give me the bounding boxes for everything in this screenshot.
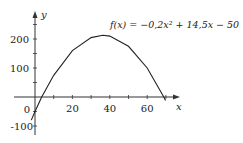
function-plot: 0 20 40 60 200 100 -100 x y f(x) = −0,2x…	[0, 0, 243, 143]
y-axis-label: y	[40, 9, 47, 20]
x-tick-label-20: 20	[66, 103, 79, 114]
y-axis-arrow-icon	[33, 11, 38, 18]
x-tick-label-40: 40	[103, 103, 116, 114]
function-label: f(x) = −0,2x² + 14,5x − 50	[109, 19, 239, 30]
y-tick-label-100: 100	[10, 63, 29, 74]
y-tick-label-200: 200	[10, 34, 29, 45]
x-tick-label-0: 0	[24, 104, 30, 115]
y-tick-label-minus-100: -100	[11, 121, 33, 132]
x-tick-label-60: 60	[141, 103, 154, 114]
x-axis-arrow-icon	[173, 95, 180, 100]
x-axis-label: x	[176, 101, 182, 112]
